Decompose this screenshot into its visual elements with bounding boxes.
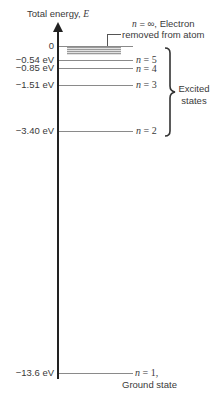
infinity-annotation-line1: n = ∞, Electron [132,19,194,30]
n-value: 4 [152,63,157,74]
energy-label-n3: −1.51 eV [0,80,54,90]
n-value: 1, [151,367,159,378]
n-label-3: n = 3 [136,80,157,90]
n-label-2: n = 2 [136,126,157,136]
excited-label-line2: states [177,96,211,106]
axis-title: Total energy, E [27,9,89,20]
energy-label-n2: −3.40 eV [0,126,54,136]
n-value: 3 [152,79,157,90]
level-line-n5 [59,60,133,61]
n-label-4: n = 4 [136,64,157,74]
n-value: 2 [152,125,157,136]
continuum-band [67,47,121,55]
ground-state-label: Ground state [122,380,177,390]
axis-symbol: E [83,9,89,19]
excited-states-brace-icon [163,47,177,137]
equals: = [141,79,152,90]
annotation-leader [107,34,108,46]
level-line-n4 [59,68,133,69]
energy-label-zero: 0 [0,41,54,51]
n-label-1: n = 1, [135,368,158,378]
level-line-n2 [59,131,133,132]
infinity-annotation-line2: removed from atom [122,30,204,40]
equals: = [141,125,152,136]
level-line-infinity [59,46,133,47]
level-line-n1 [59,373,133,374]
axis-title-text: Total energy, [27,8,83,19]
excited-label-line1: Excited [177,84,211,94]
annotation-leader-horizontal [107,34,121,35]
equals: = [140,367,151,378]
energy-label-n4: −0.85 eV [0,63,54,73]
energy-label-n1: −13.6 eV [0,368,54,378]
level-line-n3 [59,85,133,86]
energy-axis [57,30,59,379]
equals: = [141,63,152,74]
